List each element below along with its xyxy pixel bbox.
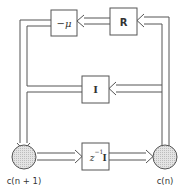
I-label: I	[93, 84, 98, 95]
path-mu-to-left-node	[20, 20, 51, 143]
R-label: R	[120, 17, 128, 28]
arrow-R-to-mu	[77, 15, 110, 27]
path-I-to-left-node	[17, 86, 82, 150]
feedback-path-to-R	[137, 14, 169, 146]
block-diagram: −μ R I z −1 I c(n + 1) c(n)	[0, 0, 186, 189]
node-c-n-plus-1: c(n + 1)	[7, 145, 42, 186]
node-c-n: c(n)	[153, 145, 177, 186]
arrow-delay-to-right-node	[108, 150, 153, 163]
block-R: R	[110, 8, 137, 35]
delay-label-tail: I	[102, 153, 106, 163]
branch-to-I	[109, 82, 162, 95]
arrow-left-node-to-delay	[37, 150, 82, 163]
node-right-label: c(n)	[157, 176, 174, 186]
node-left-label: c(n + 1)	[7, 176, 42, 186]
block-neg-mu: −μ	[51, 10, 77, 36]
block-I: I	[82, 76, 109, 103]
neg-mu-label: −μ	[57, 18, 72, 29]
block-delay: z −1 I	[82, 143, 109, 170]
